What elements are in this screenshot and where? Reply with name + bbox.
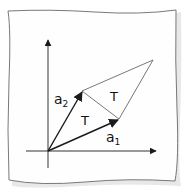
vector-a1-subscript: 1	[115, 137, 121, 147]
diagram-canvas: a2 a1 T T	[0, 0, 185, 192]
triangle-lower-label: T	[80, 113, 89, 128]
paper-sheet	[8, 10, 178, 184]
vector-a2-subscript: 2	[63, 99, 69, 109]
triangle-upper-label: T	[109, 89, 118, 104]
